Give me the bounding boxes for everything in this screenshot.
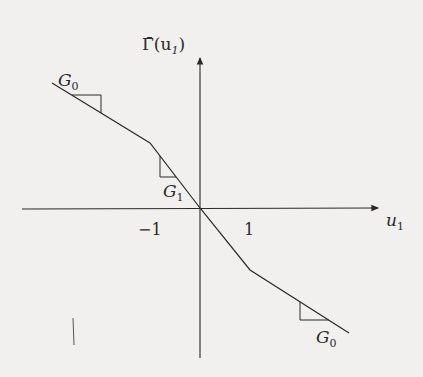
slope-label-G1: G1 — [163, 181, 184, 204]
slope-label-G0-right: G0 — [316, 327, 337, 350]
x-axis-label: u1 — [386, 210, 404, 233]
slope-label-G0-left: G0 — [58, 70, 79, 93]
tick-label-pos-one: 1 — [244, 220, 254, 239]
stray-mark — [73, 318, 74, 345]
diagram-canvas: Γ̄(u1) u1 −1 1 G0 G1 G0 — [0, 0, 423, 377]
y-axis-label: Γ̄(u1) — [142, 34, 185, 57]
tick-label-neg-one: −1 — [138, 220, 162, 239]
